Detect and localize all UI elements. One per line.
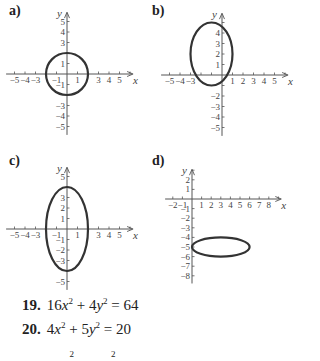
y-tick-label: 2	[186, 175, 191, 185]
y-tick-label: −3	[180, 223, 190, 233]
exercise-number: 20.	[22, 321, 41, 337]
x-tick-label: 2	[209, 200, 214, 210]
rhs: 20	[116, 321, 131, 337]
x-axis-label: x	[280, 199, 286, 211]
y-tick-label: −8	[180, 271, 190, 281]
exercise-21-cutoff: 21. 22	[22, 344, 54, 361]
y-tick-label: 1	[186, 184, 191, 194]
coef-b: 5	[81, 321, 89, 337]
y-tick-label: −4	[180, 232, 190, 242]
y-tick-label: −5	[180, 242, 190, 252]
x-tick-label: 5	[238, 200, 243, 210]
x-tick-label: 1	[199, 200, 204, 210]
y-tick-label: −2	[180, 213, 190, 223]
x-tick-label: 3	[219, 200, 224, 210]
exercise-20: 20.4x2 + 5y2 = 20	[22, 320, 131, 338]
ellipse-curve	[192, 237, 250, 256]
y-tick-label: −6	[180, 252, 190, 262]
rhs: 64	[124, 297, 139, 313]
x-tick-label: 8	[267, 200, 272, 210]
x-tick-label: 4	[228, 200, 233, 210]
coef-a: 16	[47, 297, 62, 313]
y-tick-label: −7	[180, 261, 190, 271]
y-tick-label: −1	[180, 204, 190, 214]
exercise-19: 19.16x2 + 4y2 = 64	[22, 296, 139, 314]
x-tick-label: 7	[257, 200, 262, 210]
x-tick-label: −2	[168, 200, 178, 210]
x-tick-label: 6	[247, 200, 252, 210]
exercise-number: 19.	[22, 297, 41, 313]
